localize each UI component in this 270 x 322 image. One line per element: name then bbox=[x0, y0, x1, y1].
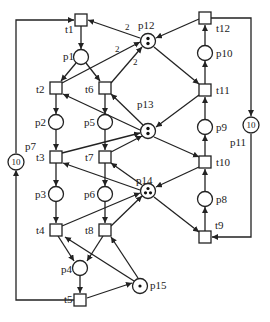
label-t3: t3 bbox=[36, 151, 45, 163]
token-dot bbox=[149, 191, 152, 194]
label-p4: p4 bbox=[61, 263, 73, 275]
token-dot bbox=[144, 191, 147, 194]
petri-net-diagram: 2 2 2 bbox=[0, 0, 270, 322]
label-t8: t8 bbox=[85, 224, 94, 236]
place-p4 bbox=[73, 261, 88, 276]
label-t12: t12 bbox=[216, 22, 230, 34]
label-p9: p9 bbox=[216, 121, 228, 133]
label-p3: p3 bbox=[35, 188, 47, 200]
label-t7: t7 bbox=[85, 151, 94, 163]
label-t1: t1 bbox=[65, 23, 74, 35]
place-p13 bbox=[141, 124, 156, 139]
token-dot bbox=[146, 132, 149, 135]
token-dot bbox=[146, 37, 149, 40]
label-p13: p13 bbox=[137, 98, 154, 110]
place-p9 bbox=[198, 120, 213, 135]
label-t9: t9 bbox=[215, 219, 224, 231]
label-p14: p14 bbox=[136, 174, 153, 186]
transition-t5 bbox=[74, 294, 86, 306]
transition-t4 bbox=[50, 224, 62, 236]
label-p5: p5 bbox=[84, 116, 96, 128]
label-p15: p15 bbox=[150, 279, 167, 291]
place-p5 bbox=[98, 115, 113, 130]
transition-t2 bbox=[50, 82, 62, 94]
weight-p12-t1: 2 bbox=[125, 22, 130, 32]
weight-t2-p12: 2 bbox=[115, 44, 120, 54]
label-p2: p2 bbox=[35, 116, 46, 128]
label-p1: p1 bbox=[63, 50, 74, 62]
place-p12 bbox=[141, 34, 156, 49]
p11-token-count: 10 bbox=[247, 120, 257, 130]
place-p2 bbox=[49, 115, 64, 130]
label-t5: t5 bbox=[64, 293, 73, 305]
transition-t11 bbox=[199, 84, 211, 96]
label-t2: t2 bbox=[36, 83, 45, 95]
place-p6 bbox=[98, 187, 113, 202]
token-dot bbox=[146, 187, 149, 190]
p7-token-count: 10 bbox=[12, 157, 22, 167]
transition-t10 bbox=[199, 156, 211, 168]
label-t11: t11 bbox=[216, 84, 230, 96]
place-p3 bbox=[49, 187, 64, 202]
label-p8: p8 bbox=[216, 193, 228, 205]
label-p7: p7 bbox=[25, 140, 37, 152]
transition-t6 bbox=[99, 82, 111, 94]
label-p11: p11 bbox=[230, 136, 246, 148]
label-t10: t10 bbox=[216, 156, 231, 168]
token-dot bbox=[138, 284, 141, 287]
transition-t8 bbox=[99, 224, 111, 236]
transition-t12 bbox=[199, 12, 211, 24]
transition-t3 bbox=[50, 151, 62, 163]
label-p12: p12 bbox=[138, 19, 155, 31]
transition-t9 bbox=[199, 231, 211, 243]
weight-t6-p12: 2 bbox=[133, 57, 138, 67]
label-p10: p10 bbox=[216, 47, 233, 59]
label-p6: p6 bbox=[84, 188, 96, 200]
label-t6: t6 bbox=[85, 83, 94, 95]
token-dot bbox=[146, 42, 149, 45]
place-p10 bbox=[198, 46, 213, 61]
transition-t1 bbox=[75, 14, 87, 26]
label-t4: t4 bbox=[36, 224, 45, 236]
token-dot bbox=[146, 127, 149, 130]
place-p1 bbox=[74, 50, 89, 65]
transition-t7 bbox=[99, 151, 111, 163]
place-p8 bbox=[198, 192, 213, 207]
